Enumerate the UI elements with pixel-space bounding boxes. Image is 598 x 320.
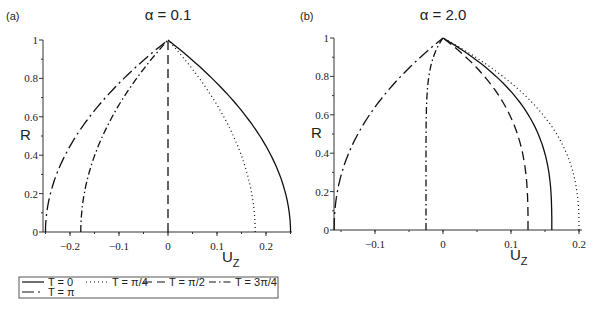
legend: T = 0T = π/4T = π/2T = 3π/4T = π [19,276,278,298]
panel-label: (b) [300,10,313,22]
curve-dashdot [81,40,168,232]
x-axis-label: UZ [510,246,528,267]
y-axis-label: R [20,126,31,143]
curve-dotted [443,38,579,230]
chart-title: α = 2.0 [420,6,467,23]
y-tick-label: 1 [324,32,330,44]
curve-longdash [46,40,169,232]
x-tick-label: −0.2 [60,240,80,252]
x-tick-label: 0 [440,238,446,250]
x-tick-label: 0.2 [572,238,586,250]
y-tick-label: 0.8 [315,70,329,82]
y-tick-label: 0.6 [24,111,38,123]
curve-solid [443,38,552,230]
curve-dotted [168,40,255,232]
y-tick-label: 0.2 [315,186,329,198]
curve-dashdot [426,38,443,230]
x-tick-label: −0.1 [365,238,385,250]
x-axis-label: UZ [222,248,240,269]
legend-entry: T = π/2 [169,276,205,288]
figure: (a)α = 0.100.20.40.60.81−0.2−0.100.10.2R… [0,0,598,320]
y-tick-label: 0.6 [315,109,329,121]
x-tick-label: 0.2 [259,240,273,252]
curve-solid [168,40,291,232]
legend-entry: T = 3π/4 [235,276,277,288]
legend-entry: T = π/4 [112,276,148,288]
panel-label: (a) [6,10,19,22]
curve-longdash [334,38,443,230]
y-axis-label: R [311,124,322,141]
y-tick-label: 0.4 [24,149,38,161]
y-tick-label: 0 [33,226,39,238]
y-tick-label: 0.8 [24,72,38,84]
panel-b: (b)α = 2.000.20.40.60.81−0.100.10.2RUZ [300,6,586,267]
panel-a: (a)α = 0.100.20.40.60.81−0.2−0.100.10.2R… [6,6,292,269]
x-tick-label: −0.1 [109,240,129,252]
legend-entry: T = π [48,286,75,298]
y-tick-label: 1 [33,34,39,46]
y-tick-label: 0.2 [24,188,38,200]
y-tick-label: 0.4 [315,147,329,159]
chart-title: α = 0.1 [145,6,192,23]
x-tick-label: 0 [165,240,171,252]
y-tick-label: 0 [324,224,330,236]
